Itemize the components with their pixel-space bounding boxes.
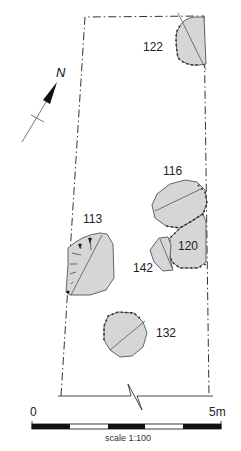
north-arrow-icon (43, 82, 57, 104)
feature-label-113: 113 (83, 212, 102, 226)
feature-113: 113 (66, 212, 114, 295)
north-label: N (56, 65, 66, 80)
scale-bar: 0 5m scale 1:100 (30, 405, 226, 443)
scale-end-label: 5m (209, 405, 226, 419)
north-arrow: N (22, 65, 66, 142)
feature-label-116: 116 (163, 164, 182, 178)
feature-142: 142 (133, 237, 173, 275)
site-plan: N 122 116 120 142 113 (0, 0, 241, 451)
scale-start-label: 0 (30, 405, 37, 419)
feature-label-120: 120 (178, 239, 198, 253)
feature-132: 132 (104, 312, 176, 357)
feature-label-142: 142 (133, 261, 153, 275)
scale-caption: scale 1:100 (105, 433, 151, 443)
feature-label-122: 122 (143, 40, 163, 54)
baseline-with-break (58, 384, 213, 410)
feature-122: 122 (143, 13, 206, 70)
feature-label-132: 132 (156, 326, 176, 340)
